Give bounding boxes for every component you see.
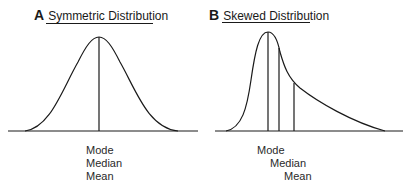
symmetric-curve: [25, 37, 178, 131]
panel-a-label-mean: Mean: [86, 170, 114, 183]
panel-b-label-mode: Mode: [257, 144, 285, 157]
panel-b-label-median: Median: [270, 157, 306, 170]
panel-a-label-median: Median: [86, 157, 122, 170]
distribution-diagram: [0, 0, 413, 183]
panel-a-label-mode: Mode: [86, 144, 114, 157]
panel-b-label-mean: Mean: [284, 170, 312, 183]
skewed-curve: [226, 32, 385, 131]
